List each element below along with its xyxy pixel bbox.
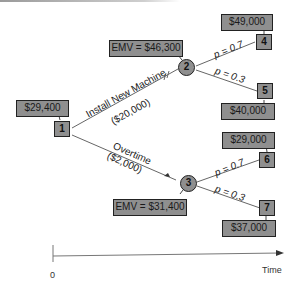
outcome-value-4: $49,000 — [221, 14, 273, 31]
emv-box-node-3: EMV = $31,400 — [113, 199, 187, 216]
axis-origin-label: 0 — [50, 270, 55, 280]
chance-node-2[interactable]: 2 — [178, 59, 195, 76]
decision-node-1[interactable]: 1 — [54, 121, 70, 137]
root-value-box: $29,400 — [16, 100, 69, 117]
chance-node-3[interactable]: 3 — [180, 175, 197, 192]
outcome-value-6: $29,000 — [222, 132, 275, 149]
outcome-value-5: $40,000 — [221, 103, 275, 120]
outcome-value-7: $37,000 — [222, 220, 276, 237]
emv-box-node-2: EMV = $46,300 — [109, 40, 183, 57]
outcome-node-4[interactable]: 4 — [256, 34, 272, 50]
axis-time-label: Time — [262, 265, 282, 275]
outcome-node-7[interactable]: 7 — [259, 200, 275, 216]
outcome-node-5[interactable]: 5 — [257, 83, 273, 99]
outcome-node-6[interactable]: 6 — [259, 152, 275, 168]
